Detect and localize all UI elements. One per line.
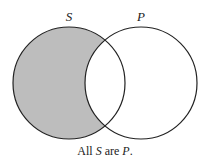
caption: All S are P.: [77, 144, 132, 158]
label-s: S: [66, 9, 73, 24]
caption-part3: .: [130, 144, 133, 158]
caption-part2: are: [102, 144, 123, 158]
caption-part1: All: [77, 144, 95, 158]
label-p: P: [136, 9, 145, 24]
venn-diagram: S P All S are P.: [0, 0, 211, 162]
shaded-region-s-not-p: [0, 0, 211, 162]
